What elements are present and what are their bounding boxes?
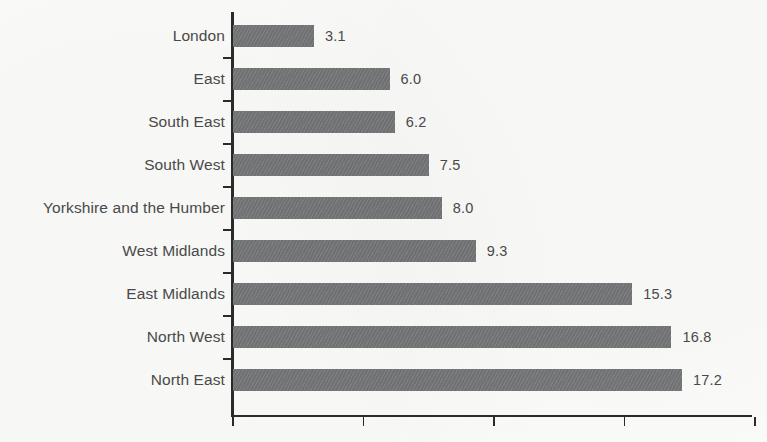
x-axis-tick xyxy=(754,417,756,426)
category-label: South East xyxy=(148,113,225,131)
bar xyxy=(233,154,429,176)
bar xyxy=(233,197,442,219)
bar-value-label: 6.2 xyxy=(406,114,427,130)
bar-row: East6.0 xyxy=(0,57,767,100)
bar xyxy=(233,369,682,391)
bar-chart: London3.1East6.0South East6.2South West7… xyxy=(0,0,767,442)
x-axis-tick xyxy=(493,417,495,426)
bar-row: West Midlands9.3 xyxy=(0,229,767,272)
bar-row: London3.1 xyxy=(0,14,767,57)
bar-value-label: 15.3 xyxy=(643,286,672,302)
bar-value-label: 17.2 xyxy=(693,372,722,388)
bar xyxy=(233,283,632,305)
bar xyxy=(233,111,395,133)
x-axis-tick xyxy=(363,417,365,426)
bar-row: East Midlands15.3 xyxy=(0,272,767,315)
bar-value-label: 6.0 xyxy=(401,71,422,87)
bar-value-label: 8.0 xyxy=(453,200,474,216)
x-axis-tick xyxy=(624,417,626,426)
x-axis-tick xyxy=(232,417,234,426)
bar xyxy=(233,68,390,90)
category-label: East Midlands xyxy=(126,285,225,303)
category-label: West Midlands xyxy=(122,242,225,260)
bar-row: North West16.8 xyxy=(0,315,767,358)
bar-row: South East6.2 xyxy=(0,100,767,143)
category-label: North East xyxy=(151,371,225,389)
plot-area: London3.1East6.0South East6.2South West7… xyxy=(0,0,767,442)
bar-value-label: 9.3 xyxy=(487,243,508,259)
bar-row: North East17.2 xyxy=(0,358,767,401)
bar-row: Yorkshire and the Humber8.0 xyxy=(0,186,767,229)
category-label: Yorkshire and the Humber xyxy=(43,199,225,217)
bar-value-label: 7.5 xyxy=(440,157,461,173)
category-label: North West xyxy=(147,328,225,346)
bar xyxy=(233,326,671,348)
bar xyxy=(233,25,314,47)
category-label: East xyxy=(194,70,225,88)
bar-row: South West7.5 xyxy=(0,143,767,186)
bar-value-label: 3.1 xyxy=(325,28,346,44)
bar xyxy=(233,240,476,262)
bar-value-label: 16.8 xyxy=(682,329,711,345)
x-axis-line xyxy=(231,415,752,417)
category-label: London xyxy=(173,27,225,45)
category-label: South West xyxy=(144,156,225,174)
